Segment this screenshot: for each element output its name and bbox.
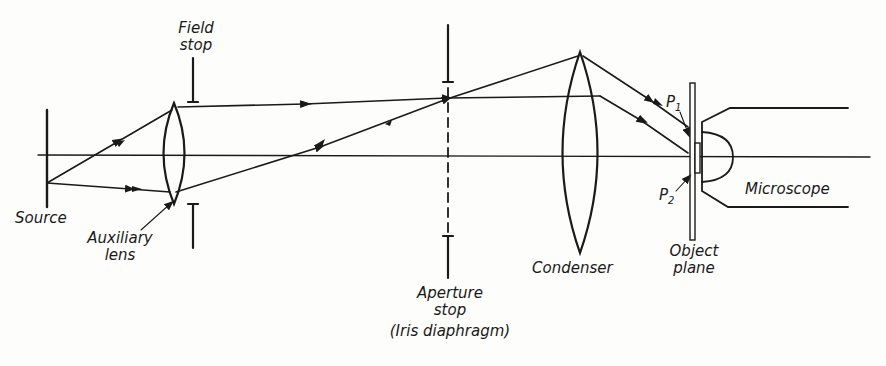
object-plane xyxy=(690,83,700,240)
aperture-stop-label-line2: stop xyxy=(380,302,520,319)
auxiliary-lens-pointer xyxy=(141,204,170,230)
object-plane-label: Object plane xyxy=(664,243,724,277)
microscope-label-text: Microscope xyxy=(745,180,830,198)
condenser-label-text: Condenser xyxy=(532,259,613,277)
p1-label-subscript: 1 xyxy=(675,102,681,113)
object-plane-label-line2: plane xyxy=(664,260,724,277)
condenser-lens xyxy=(563,52,598,253)
object-plane-label-line1: Object xyxy=(664,243,724,260)
light-rays xyxy=(47,56,688,192)
p1-label: P1 xyxy=(666,94,681,112)
field-stop xyxy=(188,58,198,248)
aperture-stop-label: Aperture stop (Iris diaphragm) xyxy=(380,285,520,340)
field-stop-label-line2: stop xyxy=(176,37,216,54)
condenser-label: Condenser xyxy=(532,260,613,277)
source-label-text: Source xyxy=(15,209,67,227)
auxiliary-lens-label-line2: lens xyxy=(80,247,160,264)
auxiliary-lens xyxy=(164,103,185,204)
p2-label-subscript: 2 xyxy=(668,195,674,206)
p1-label-main: P xyxy=(666,93,675,111)
aperture-stop-label-line1: Aperture xyxy=(380,285,520,302)
p2-pointer xyxy=(676,178,688,191)
aperture-stop-label-line3: (Iris diaphragm) xyxy=(380,323,520,340)
p2-label-main: P xyxy=(659,186,668,204)
auxiliary-lens-label-line1: Auxiliary xyxy=(80,230,160,247)
auxiliary-lens-label: Auxiliary lens xyxy=(80,230,160,264)
aperture-stop xyxy=(443,25,453,278)
field-stop-label: Field stop xyxy=(176,20,216,54)
field-stop-label-line1: Field xyxy=(176,20,216,37)
p2-label: P2 xyxy=(659,187,674,205)
source-label: Source xyxy=(15,210,67,227)
microscope-label: Microscope xyxy=(745,181,830,198)
optical-diagram: Field stop Source Auxiliary lens Apertur… xyxy=(0,0,886,366)
